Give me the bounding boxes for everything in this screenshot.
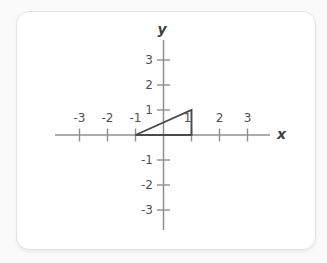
y-tick-label: -3	[141, 203, 153, 217]
y-axis-label: y	[157, 21, 167, 37]
y-tick-label: 3	[145, 53, 153, 67]
y-tick-label: 1	[145, 103, 153, 117]
x-tick-label: 2	[216, 111, 224, 125]
x-axis-label: x	[276, 126, 287, 142]
x-tick-label: -1	[130, 111, 142, 125]
y-tick-label: -1	[141, 153, 153, 167]
y-tick-label: 2	[145, 78, 153, 92]
y-tick-label: -2	[141, 178, 153, 192]
coordinate-plane: -3-2-1123 321-1-2-3 x y	[0, 0, 327, 263]
x-tick-label: -2	[102, 111, 114, 125]
x-tick-label: 3	[244, 111, 252, 125]
x-tick-label: -3	[74, 111, 86, 125]
